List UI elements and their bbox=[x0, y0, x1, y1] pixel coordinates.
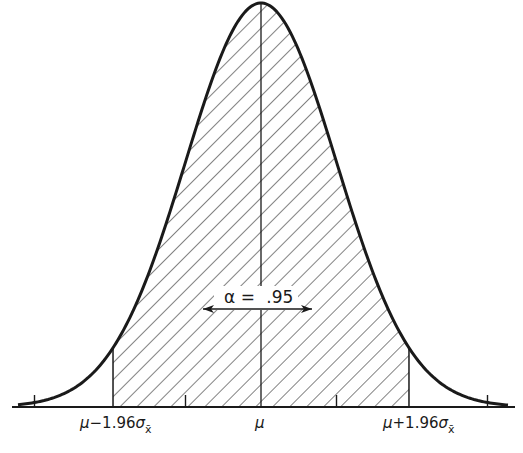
label-upper-critical: μ+1.96σx̄ bbox=[383, 414, 455, 432]
label-lower-critical: μ−1.96σx̄ bbox=[80, 414, 152, 432]
normal-distribution-figure: α = .95 μ−1.96σx̄ μ μ+1.96σx̄ bbox=[0, 0, 523, 453]
alpha-annotation: α = .95 bbox=[224, 287, 293, 307]
alpha-value: .95 bbox=[266, 287, 293, 307]
alpha-symbol: α bbox=[224, 287, 235, 307]
normal-curve-plot bbox=[0, 0, 523, 453]
label-mean: μ bbox=[255, 414, 265, 432]
alpha-equals: = bbox=[241, 287, 255, 307]
